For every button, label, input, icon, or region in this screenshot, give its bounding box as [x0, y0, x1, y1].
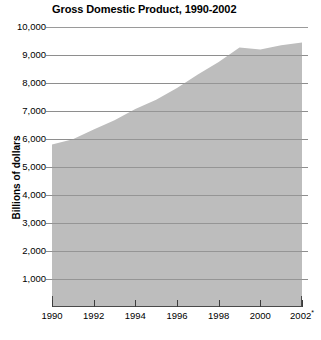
y-tick-label-8000: 8,000	[2, 78, 46, 88]
gridline-overlay-4000	[52, 195, 302, 196]
gridline-overlay-7000	[52, 111, 302, 112]
x-tick-1994	[135, 300, 136, 307]
gridline-overlay-2000	[52, 251, 302, 252]
y-axis-tick-labels: 1,0002,0003,0004,0005,0006,0007,0008,000…	[0, 0, 46, 340]
gridline-overlay-5000	[52, 167, 302, 168]
y-tick-label-7000: 7,000	[2, 106, 46, 116]
y-tick-label-6000: 6,000	[2, 134, 46, 144]
y-tick-label-2000: 2,000	[2, 246, 46, 256]
y-tick-label-4000: 4,000	[2, 190, 46, 200]
y-tick-label-9000: 9,000	[2, 50, 46, 60]
x-tick-label-1990: 1990	[41, 310, 62, 321]
gdp-area-chart: Gross Domestic Product, 1990-2002 Billio…	[0, 0, 321, 340]
gridline-overlay-6000	[52, 139, 302, 140]
x-tick-label-1996: 1996	[166, 310, 187, 321]
x-tick-1990	[52, 300, 53, 307]
y-tick-label-5000: 5,000	[2, 162, 46, 172]
y-tick-label-1000: 1,000	[2, 274, 46, 284]
x-tick-label-1992: 1992	[83, 310, 104, 321]
x-tick-1996	[177, 300, 178, 307]
x-tick-label-footnote-marker: *	[311, 309, 314, 316]
gridline-overlay-9000	[52, 55, 302, 56]
x-tick-label-2002: 2002*	[290, 310, 314, 321]
gridline-overlay-8000	[52, 83, 302, 84]
x-tick-label-1998: 1998	[208, 310, 229, 321]
gridline-overlay-1000	[52, 279, 302, 280]
gridline-overlay-3000	[52, 223, 302, 224]
x-tick-1992	[94, 300, 95, 307]
x-tick-label-1994: 1994	[125, 310, 146, 321]
x-tick-1998	[219, 300, 220, 307]
x-tick-2002	[302, 300, 303, 307]
x-tick-2000	[260, 300, 261, 307]
chart-title: Gross Domestic Product, 1990-2002	[52, 3, 236, 15]
y-tick-label-3000: 3,000	[2, 218, 46, 228]
x-tick-label-2000: 2000	[250, 310, 271, 321]
y-tick-label-10000: 10,000	[2, 22, 46, 32]
